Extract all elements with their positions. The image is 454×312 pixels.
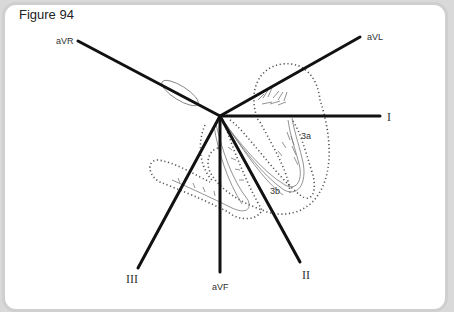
region-label-3b: 3b <box>270 186 280 196</box>
lead-axes <box>78 37 380 272</box>
lead-label-avf: aVF <box>212 282 229 292</box>
lead-label-i: I <box>387 110 391 124</box>
lead-axis-avr <box>78 41 220 116</box>
lead-axis-iii <box>138 116 220 268</box>
region-label-3a: 3a <box>301 131 311 141</box>
lead-label-iii: III <box>126 272 138 286</box>
lead-axis-ii <box>220 116 300 262</box>
lead-label-avl: aVL <box>367 32 383 42</box>
lead-label-avr: aVR <box>56 36 74 46</box>
lead-label-ii: II <box>302 268 310 282</box>
lead-axis-avl <box>220 37 360 116</box>
